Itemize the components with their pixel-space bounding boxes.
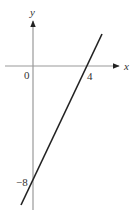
x-axis-label: x: [123, 60, 129, 72]
chart: y x 0 4 −8: [0, 0, 136, 217]
y-intercept-label: −8: [16, 176, 28, 188]
x-intercept-label: 4: [87, 70, 93, 82]
y-axis-label: y: [29, 6, 35, 18]
origin-label: 0: [24, 69, 30, 81]
